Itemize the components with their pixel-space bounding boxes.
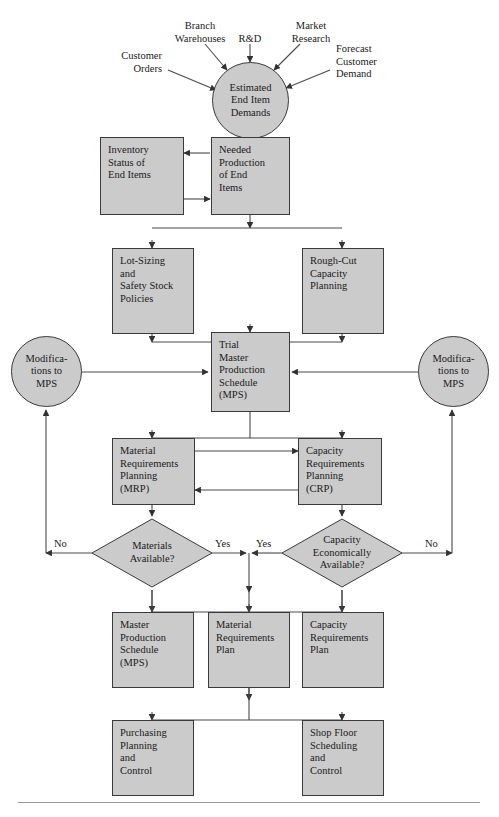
edge-label-no-left: No bbox=[54, 538, 67, 551]
node-needed-production-of-end-items[interactable]: Needed Production of End Items bbox=[211, 137, 290, 215]
node-shop-floor-scheduling-and-control[interactable]: Shop Floor Scheduling and Control bbox=[302, 720, 384, 796]
node-materials-available[interactable]: Materials Available? bbox=[107, 536, 197, 570]
node-capacity-requirements-plan[interactable]: Capacity Requirements Plan bbox=[302, 612, 384, 688]
edge-label-no-right: No bbox=[425, 538, 438, 551]
node-lot-sizing-and-safety-stock-policies[interactable]: Lot-Sizing and Safety Stock Policies bbox=[112, 248, 194, 334]
node-trial-master-production-schedule[interactable]: Trial Master Production Schedule (MPS) bbox=[211, 332, 290, 412]
figure-bottom-rule bbox=[18, 802, 480, 803]
node-purchasing-planning-and-control[interactable]: Purchasing Planning and Control bbox=[112, 720, 194, 796]
input-label-rd: R&D bbox=[222, 33, 278, 46]
input-label-forecast-customer-demand: Forecast Customer Demand bbox=[336, 43, 432, 81]
node-estimated-end-item-demands[interactable]: Estimated End Item Demands bbox=[212, 62, 289, 139]
flowchart-figure: Customer Orders Branch Warehouses R&D Ma… bbox=[0, 0, 499, 817]
input-label-customer-orders: Customer Orders bbox=[74, 50, 162, 75]
node-material-requirements-plan[interactable]: Material Requirements Plan bbox=[208, 612, 290, 688]
node-material-requirements-planning-mrp[interactable]: Material Requirements Planning (MRP) bbox=[112, 438, 195, 505]
node-master-production-schedule-mps[interactable]: Master Production Schedule (MPS) bbox=[112, 612, 194, 688]
node-capacity-requirements-planning-crp[interactable]: Capacity Requirements Planning (CRP) bbox=[298, 438, 382, 505]
node-modifications-to-mps-left[interactable]: Modifica- tions to MPS bbox=[11, 336, 82, 407]
node-rough-cut-capacity-planning[interactable]: Rough-Cut Capacity Planning bbox=[302, 248, 384, 334]
node-inventory-status-of-end-items[interactable]: Inventory Status of End Items bbox=[100, 137, 184, 215]
input-label-market-research: Market Research bbox=[274, 20, 348, 45]
node-modifications-to-mps-right[interactable]: Modifica- tions to MPS bbox=[418, 336, 489, 407]
edge-label-yes-left: Yes bbox=[215, 538, 230, 551]
node-capacity-economically-available[interactable]: Capacity Economically Available? bbox=[294, 530, 390, 576]
edge-label-yes-right: Yes bbox=[256, 538, 271, 551]
